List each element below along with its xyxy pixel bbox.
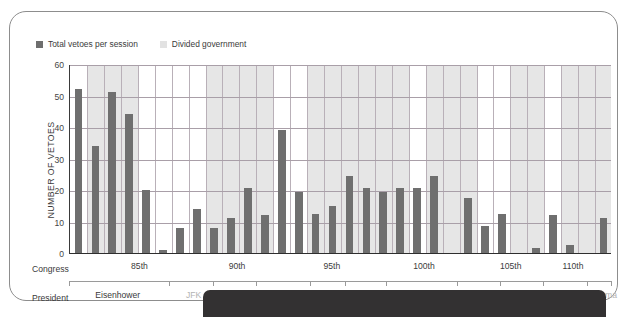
president-axis-tick bbox=[310, 281, 311, 286]
bar bbox=[549, 215, 557, 253]
president-row-label: President bbox=[32, 293, 68, 303]
president-axis-tick bbox=[169, 281, 170, 286]
gridline-horizontal bbox=[70, 97, 611, 98]
bar bbox=[92, 146, 100, 253]
gridline-horizontal bbox=[70, 223, 611, 224]
president-tick-label: Eisenhower bbox=[95, 290, 140, 300]
bar bbox=[261, 215, 269, 253]
congress-tick-label: 100th bbox=[413, 261, 435, 271]
bar bbox=[481, 226, 489, 253]
bar bbox=[600, 218, 608, 253]
president-axis-tick bbox=[345, 281, 346, 286]
gridline-horizontal bbox=[70, 128, 611, 129]
congress-tick-label: 85th bbox=[131, 261, 148, 271]
bar bbox=[498, 214, 506, 253]
president-axis-tick bbox=[611, 281, 612, 286]
chart-legend: Total vetoes per session Divided governm… bbox=[36, 38, 246, 50]
president-axis-tick bbox=[213, 281, 214, 286]
bar bbox=[244, 188, 252, 253]
plot-inner bbox=[70, 65, 611, 253]
bar bbox=[108, 92, 116, 253]
president-axis-tick bbox=[386, 281, 387, 286]
bar bbox=[125, 114, 133, 253]
gridline-horizontal bbox=[70, 160, 611, 161]
y-axis-title-wrap: NUMBER OF VETOES bbox=[32, 65, 52, 254]
president-axis-tick bbox=[256, 281, 257, 286]
bar bbox=[159, 250, 167, 253]
bar bbox=[210, 228, 218, 253]
bar bbox=[176, 228, 184, 253]
president-axis-tick bbox=[457, 281, 458, 286]
bar bbox=[396, 188, 404, 253]
chart-card: Total vetoes per session Divided governm… bbox=[9, 11, 618, 301]
congress-tick-label: 110th bbox=[563, 261, 584, 271]
president-axis bbox=[69, 281, 611, 287]
congress-tick-label: 95th bbox=[323, 261, 340, 271]
president-axis-tick bbox=[587, 281, 588, 286]
y-axis-title: NUMBER OF VETOES bbox=[46, 85, 56, 255]
bar bbox=[346, 176, 354, 253]
plot-area bbox=[69, 65, 611, 254]
president-axis-tick bbox=[69, 281, 70, 286]
bar bbox=[379, 192, 387, 253]
legend-item-divided-government: Divided government bbox=[160, 39, 246, 49]
bar bbox=[142, 190, 150, 253]
gridline-horizontal bbox=[70, 65, 611, 66]
congress-tick-label: 105th bbox=[500, 261, 522, 271]
bar bbox=[532, 248, 540, 253]
legend-label-divided-government: Divided government bbox=[172, 39, 246, 49]
bar bbox=[413, 188, 421, 253]
bottom-accent-bar-extension bbox=[203, 300, 606, 317]
legend-label-total-vetoes: Total vetoes per session bbox=[48, 39, 138, 49]
president-axis-tick bbox=[500, 281, 501, 286]
president-axis-line bbox=[69, 281, 611, 282]
legend-swatch-light bbox=[160, 41, 167, 48]
president-axis-tick bbox=[543, 281, 544, 286]
bar bbox=[312, 214, 320, 253]
bar bbox=[566, 245, 574, 253]
bar bbox=[295, 192, 303, 253]
bar bbox=[430, 176, 438, 253]
bar bbox=[227, 218, 235, 253]
congress-tick-label: 90th bbox=[229, 261, 246, 271]
bar bbox=[75, 89, 83, 253]
legend-item-total-vetoes: Total vetoes per session bbox=[36, 39, 138, 49]
legend-swatch-dark bbox=[36, 41, 43, 48]
bar bbox=[363, 188, 371, 253]
bar bbox=[193, 209, 201, 253]
congress-tick-row: 85th90th95th100th105th110th bbox=[69, 261, 611, 274]
bar bbox=[464, 198, 472, 253]
bar bbox=[329, 206, 337, 253]
president-tick-label: JFK bbox=[186, 290, 201, 300]
gridline-horizontal bbox=[70, 191, 611, 192]
bar bbox=[278, 130, 286, 253]
congress-row-label: Congress bbox=[32, 264, 69, 274]
